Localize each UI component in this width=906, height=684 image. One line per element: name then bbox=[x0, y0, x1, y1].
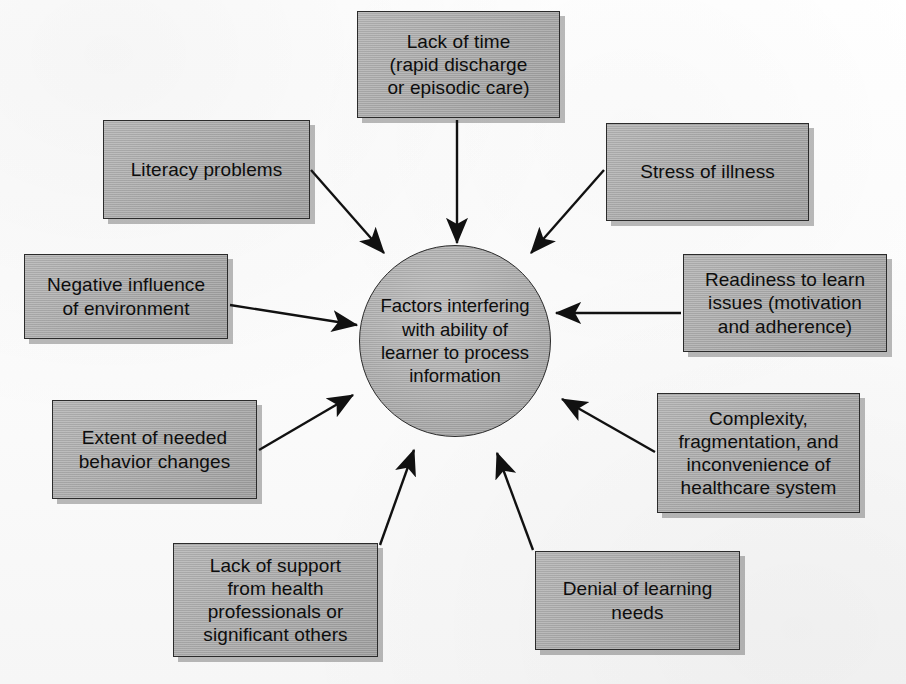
node-literacy-problems[interactable]: Literacy problems bbox=[103, 120, 310, 219]
diagram-canvas: Lack of time (rapid discharge or episodi… bbox=[0, 0, 906, 684]
node-complexity-fragmentation-inconvenience[interactable]: Complexity, fragmentation, and inconveni… bbox=[657, 393, 860, 513]
node-label: Negative influence of environment bbox=[47, 273, 205, 319]
node-label: Literacy problems bbox=[131, 158, 283, 181]
node-lack-of-time[interactable]: Lack of time (rapid discharge or episodi… bbox=[357, 11, 560, 118]
central-hub-circle[interactable]: Factors interfering with ability of lear… bbox=[359, 245, 551, 437]
node-label: Complexity, fragmentation, and inconveni… bbox=[678, 407, 838, 500]
node-readiness-to-learn-issues[interactable]: Readiness to learn issues (motivation an… bbox=[683, 254, 887, 352]
node-label: Lack of support from health professional… bbox=[203, 554, 347, 647]
node-extent-of-needed-behavior-changes[interactable]: Extent of needed behavior changes bbox=[52, 400, 257, 499]
arrow-negative-influence-of-environment bbox=[230, 305, 357, 325]
node-denial-of-learning-needs[interactable]: Denial of learning needs bbox=[535, 551, 740, 650]
node-label: Extent of needed behavior changes bbox=[79, 426, 231, 472]
arrow-stress-of-illness bbox=[531, 170, 604, 253]
node-label: Lack of time (rapid discharge or episodi… bbox=[387, 30, 529, 100]
arrow-lack-of-support bbox=[380, 450, 414, 545]
arrow-complexity-fragmentation-inconvenience bbox=[562, 399, 655, 452]
hub-label: Factors interfering with ability of lear… bbox=[380, 294, 529, 387]
arrow-denial-of-learning-needs bbox=[497, 453, 533, 550]
node-stress-of-illness[interactable]: Stress of illness bbox=[606, 123, 809, 221]
arrow-extent-of-needed-behavior-changes bbox=[259, 395, 353, 450]
arrow-literacy-problems bbox=[311, 170, 384, 253]
node-label: Denial of learning needs bbox=[563, 577, 713, 623]
node-label: Stress of illness bbox=[640, 160, 775, 183]
node-label: Readiness to learn issues (motivation an… bbox=[705, 268, 865, 338]
node-lack-of-support[interactable]: Lack of support from health professional… bbox=[173, 543, 378, 657]
node-negative-influence-of-environment[interactable]: Negative influence of environment bbox=[24, 254, 228, 339]
